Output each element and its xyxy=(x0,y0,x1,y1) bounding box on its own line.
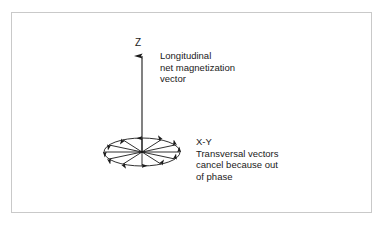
longitudinal-annotation-line-1: Longitudinal xyxy=(160,50,235,62)
transversal-annotation: X-Y Transversal vectors cancel because o… xyxy=(196,136,279,182)
transversal-annotation-line-2: Transversal vectors xyxy=(196,148,279,160)
figure-root: Z Longitudinal net magnetization vector … xyxy=(0,0,384,227)
z-axis-label: Z xyxy=(135,37,141,48)
transversal-annotation-line-3: cancel because out xyxy=(196,159,279,171)
transversal-annotation-line-4: of phase xyxy=(196,171,279,183)
longitudinal-annotation: Longitudinal net magnetization vector xyxy=(160,50,235,85)
longitudinal-annotation-line-3: vector xyxy=(160,73,235,85)
longitudinal-annotation-line-2: net magnetization xyxy=(160,62,235,74)
xy-plane-label: X-Y xyxy=(196,136,279,148)
diagram-canvas xyxy=(0,0,384,227)
